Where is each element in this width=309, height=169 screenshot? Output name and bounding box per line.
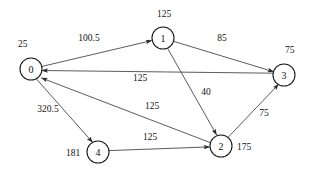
node-3[interactable]: 3 bbox=[273, 64, 295, 86]
node-1[interactable]: 1 bbox=[152, 27, 174, 49]
node-2[interactable]: 2 bbox=[210, 135, 232, 157]
edge-weight-1-2: 40 bbox=[201, 87, 211, 97]
node-0-weight: 25 bbox=[18, 39, 28, 49]
node-2-weight: 175 bbox=[237, 142, 252, 152]
edge-2-to-3 bbox=[228, 84, 279, 137]
edge-weight-3-0: 125 bbox=[133, 73, 148, 83]
edge-4-to-2 bbox=[109, 147, 210, 151]
node-1-label: 1 bbox=[161, 33, 166, 44]
nodes-group: 0 1 2 3 4 bbox=[20, 27, 295, 163]
node-3-weight: 75 bbox=[285, 45, 295, 55]
edge-weight-2-3: 75 bbox=[259, 108, 269, 118]
node-4-label: 4 bbox=[96, 147, 101, 158]
edge-weight-0-1: 100.5 bbox=[78, 33, 100, 43]
node-4-weight: 181 bbox=[66, 148, 81, 158]
node-4[interactable]: 4 bbox=[87, 141, 109, 163]
edge-weight-2-0: 125 bbox=[145, 101, 160, 111]
edge-0-to-1 bbox=[42, 41, 152, 67]
graph-svg: 0 1 2 3 4 25 125 175 75 181 bbox=[0, 0, 309, 169]
graph-diagram-canvas: 0 1 2 3 4 25 125 175 75 181 bbox=[0, 0, 309, 169]
node-2-label: 2 bbox=[219, 141, 224, 152]
edge-2-to-0 bbox=[42, 78, 211, 143]
edge-1-to-3 bbox=[174, 41, 274, 71]
node-0[interactable]: 0 bbox=[20, 58, 42, 80]
edges-group bbox=[36, 41, 278, 151]
node-0-label: 0 bbox=[29, 64, 34, 75]
edge-weight-1-3: 85 bbox=[217, 33, 227, 43]
node-3-label: 3 bbox=[282, 70, 287, 81]
edge-3-to-0 bbox=[42, 71, 273, 74]
edge-weight-0-4: 320.5 bbox=[37, 104, 59, 114]
edge-weights-group: 100.5 85 125 40 75 320.5 125 125 bbox=[37, 33, 269, 142]
node-1-weight: 125 bbox=[157, 9, 172, 19]
edge-weight-4-2: 125 bbox=[143, 132, 158, 142]
